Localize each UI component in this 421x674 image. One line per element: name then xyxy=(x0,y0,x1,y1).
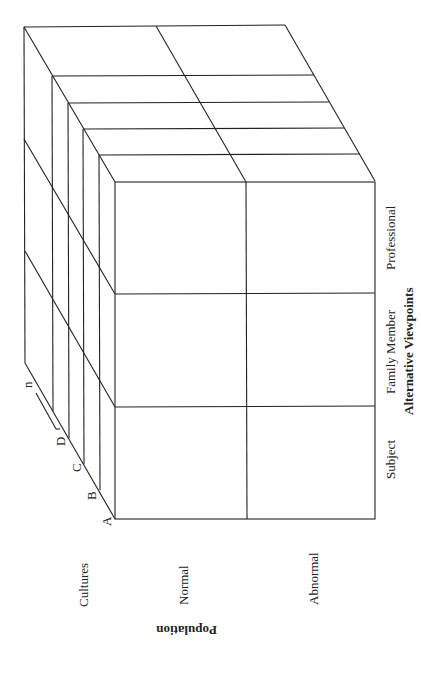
viewpoint-label-family-member: Family Member xyxy=(383,309,398,394)
cultures-axis-title: Cultures xyxy=(76,563,91,607)
cube-diagram: A B C D n Cultures Normal Abnormal Popul… xyxy=(0,0,421,674)
viewpoints-axis-title: Alternative Viewpoints xyxy=(401,288,416,415)
cube-lines xyxy=(24,25,375,519)
population-label-normal: Normal xyxy=(176,565,191,605)
population-labels: Normal Abnormal Population xyxy=(156,552,321,638)
culture-label-b: B xyxy=(84,491,99,500)
culture-label-c: C xyxy=(69,463,84,472)
population-label-abnormal: Abnormal xyxy=(306,552,321,605)
culture-label-n: n xyxy=(20,381,35,388)
culture-label-a: A xyxy=(99,516,114,526)
population-axis-title: Population xyxy=(156,623,217,638)
culture-label-d: D xyxy=(53,437,68,446)
viewpoint-labels: Subject Family Member Professional Alter… xyxy=(383,205,416,479)
viewpoint-label-professional: Professional xyxy=(383,205,398,270)
viewpoint-label-subject: Subject xyxy=(383,440,398,479)
